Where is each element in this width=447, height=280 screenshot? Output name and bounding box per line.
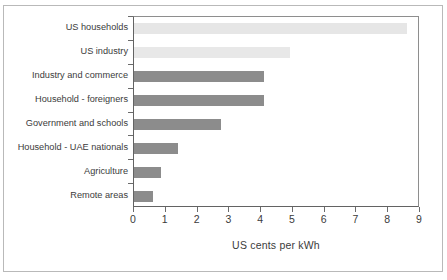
x-tick-label: 2: [185, 213, 209, 225]
x-axis-tick: [419, 207, 420, 212]
bar: [134, 71, 264, 82]
x-tick-label: 4: [248, 213, 272, 225]
x-axis-tick: [133, 207, 134, 212]
category-label: Agriculture: [0, 166, 128, 177]
bar-row: [134, 95, 418, 106]
x-tick-label: 8: [375, 213, 399, 225]
x-axis-tick-labels: 0 1 2 3 4 5 6 7 8 9: [133, 213, 419, 227]
x-axis-tick: [228, 207, 229, 212]
x-axis-tick: [197, 207, 198, 212]
x-axis-tick: [260, 207, 261, 212]
bar-row: [134, 191, 418, 202]
bar-row: [134, 23, 418, 34]
bar: [134, 47, 290, 58]
bar: [134, 119, 221, 130]
bar: [134, 143, 178, 154]
x-axis-tick: [387, 207, 388, 212]
plot-area: [133, 16, 419, 207]
x-tick-label: 7: [343, 213, 367, 225]
x-tick-label: 5: [280, 213, 304, 225]
bar: [134, 95, 264, 106]
x-tick-label: 9: [407, 213, 431, 225]
category-label: Government and schools: [0, 118, 128, 129]
x-axis-tick: [292, 207, 293, 212]
x-axis-tick: [324, 207, 325, 212]
bar-row: [134, 167, 418, 178]
x-tick-label: 1: [153, 213, 177, 225]
x-axis-tick: [355, 207, 356, 212]
category-axis-labels: US households US industry Industry and c…: [0, 16, 128, 207]
bar-chart-figure: US households US industry Industry and c…: [0, 0, 447, 280]
bar: [134, 23, 407, 34]
category-label: Industry and commerce: [0, 70, 128, 81]
x-axis-title: US cents per kWh: [133, 239, 419, 251]
bar-row: [134, 119, 418, 130]
x-tick-label: 3: [216, 213, 240, 225]
category-label: Household - foreigners: [0, 94, 128, 105]
bar: [134, 167, 161, 178]
bar-row: [134, 143, 418, 154]
bar-row: [134, 71, 418, 82]
bar-row: [134, 47, 418, 58]
bar: [134, 191, 153, 202]
category-label: Household - UAE nationals: [0, 142, 128, 153]
category-label: US households: [0, 22, 128, 33]
bar-series: [134, 17, 418, 206]
category-label: Remote areas: [0, 190, 128, 201]
x-tick-label: 0: [121, 213, 145, 225]
x-axis-tick: [165, 207, 166, 212]
x-tick-label: 6: [312, 213, 336, 225]
category-label: US industry: [0, 46, 128, 57]
